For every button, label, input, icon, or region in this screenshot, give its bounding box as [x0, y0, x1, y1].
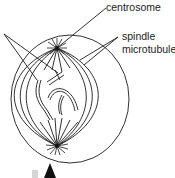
spindle-microtubules [14, 48, 98, 146]
chromosomes [36, 70, 78, 120]
pointer-arrow-icon [44, 163, 56, 178]
left-leader-lines [4, 34, 58, 80]
centrosome-bottom [46, 144, 68, 155]
mitosis-diagram [0, 0, 175, 178]
spindle-leader-lines [80, 37, 118, 65]
centrosome-label: centrosome [106, 1, 161, 13]
spindle-label-line2: microtubules [122, 43, 175, 55]
spindle-label-line1: spindle [122, 30, 155, 42]
centrosome-leader-line [57, 8, 106, 48]
faint-mark [32, 170, 38, 178]
